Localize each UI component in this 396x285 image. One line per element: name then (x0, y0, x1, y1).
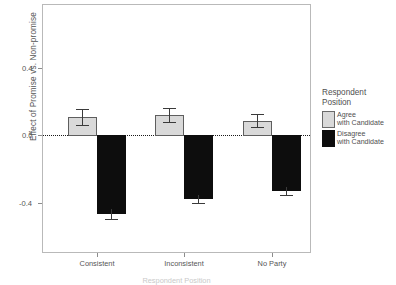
y-tick-label-1: 0.0 (22, 131, 33, 140)
legend-body: Agree with Candidate Disagree with Candi… (322, 111, 396, 151)
errorbar-noparty-agree-cap-top (251, 114, 264, 115)
x-tick-mark-0 (97, 253, 98, 257)
errorbar-noparty-disagree-cap-bottom (280, 195, 293, 196)
errorbar-consistent-agree-cap-top (76, 109, 89, 110)
y-tick-label-0: 0.4 (22, 64, 33, 73)
errorbar-consistent-disagree-cap-bottom (105, 219, 118, 220)
legend-label-agree: Agree with Candidate (337, 111, 384, 127)
legend-label-agree-line1: Agree (337, 111, 384, 119)
x-axis-title: Respondent Position (42, 276, 311, 285)
errorbar-consistent-agree-cap-bottom (76, 125, 89, 126)
bar-inconsistent-disagree[interactable] (184, 135, 213, 199)
errorbar-inconsistent-disagree-cap-bottom (192, 203, 205, 204)
bar-consistent-disagree[interactable] (97, 135, 126, 214)
errorbar-consistent-agree-line (82, 109, 83, 125)
errorbar-noparty-agree-line (257, 114, 258, 127)
errorbar-noparty-agree-cap-bottom (251, 127, 264, 128)
legend-title-line2: Position (322, 98, 396, 108)
y-tick-label-2: -0.4 (19, 199, 32, 208)
legend-label-disagree: Disagree with Candidate (337, 130, 384, 146)
bar-noparty-disagree[interactable] (272, 135, 301, 191)
legend-swatch-disagree[interactable] (322, 130, 335, 147)
errorbar-inconsistent-agree-line (169, 108, 170, 122)
errorbar-inconsistent-agree-cap-bottom (163, 122, 176, 123)
errorbar-consistent-disagree-line (111, 209, 112, 219)
legend-title-line1: Respondent (322, 88, 396, 98)
errorbar-inconsistent-agree-cap-top (163, 108, 176, 109)
x-tick-label-1: Inconsistent (164, 259, 203, 268)
x-tick-mark-2 (272, 253, 273, 257)
x-tick-mark-1 (184, 253, 185, 257)
x-tick-label-2: No Party (258, 259, 287, 268)
x-tick-label-0: Consistent (80, 259, 115, 268)
legend-label-disagree-line1: Disagree (337, 130, 384, 138)
legend-label-agree-line2: with Candidate (337, 119, 384, 127)
legend: Respondent Position Agree with Candidate… (322, 88, 396, 151)
legend-swatch-agree[interactable] (322, 111, 335, 128)
legend-label-disagree-line2: with Candidate (337, 138, 384, 146)
